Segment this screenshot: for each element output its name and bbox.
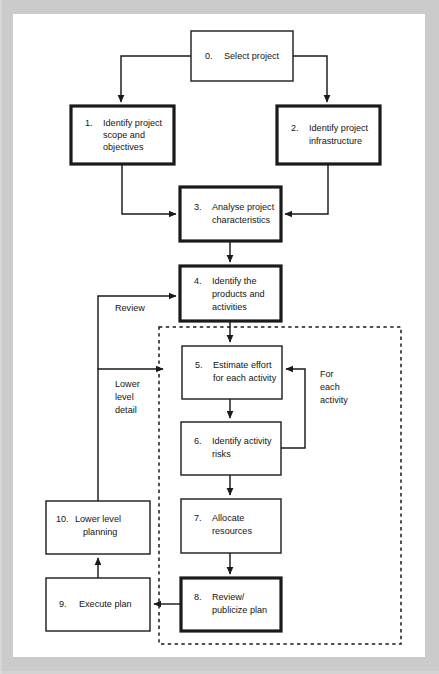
annotation-lower-level-detail-line-2: detail	[115, 405, 137, 415]
annotation-for-each-activity-line-2: activity	[320, 395, 348, 405]
flow-node-10-lower-level-planning[interactable]: 10. Lower level planning	[46, 501, 150, 554]
flow-node-4-label-line-1: products and	[212, 289, 265, 299]
flow-node-10-number: 10.	[56, 514, 69, 524]
flow-node-1-number: 1.	[85, 118, 93, 128]
edge-1-to-3	[122, 164, 176, 214]
flow-node-5-estimate-effort-for-each-activity[interactable]: 5. Estimate effort for each activity	[182, 346, 282, 399]
flow-node-5-label-line-1: for each activity	[213, 373, 277, 383]
diagram-canvas: 0. Select project 1. Identify project sc…	[13, 14, 425, 657]
flow-node-2-rect	[277, 106, 380, 164]
flow-node-7-label-line-1: resources	[212, 526, 252, 536]
flow-node-6-identify-activity-risks[interactable]: 6. Identify activity risks	[181, 422, 281, 475]
flow-node-1-label-line-2: objectives	[103, 142, 144, 152]
flowchart-svg: 0. Select project 1. Identify project sc…	[13, 14, 425, 657]
annotation-lower-level-detail-line-1: level	[115, 392, 134, 402]
flow-node-9-label-line-0: Execute plan	[79, 599, 132, 609]
flow-node-10-label-line-1: planning	[83, 527, 117, 537]
edge-2-to-3	[285, 164, 328, 214]
flow-node-9-number: 9.	[59, 599, 67, 609]
flow-node-8-label-line-0: Review/	[212, 592, 245, 602]
annotation-for-each-activity: For each activity	[320, 369, 348, 405]
flow-node-0-select-project[interactable]: 0. Select project	[191, 31, 293, 81]
flow-node-3-label-line-1: characteristics	[212, 215, 271, 225]
flow-node-3-number: 3.	[194, 202, 202, 212]
flow-node-7-number: 7.	[194, 513, 202, 523]
flow-node-8-label-line-1: publicize plan	[212, 605, 267, 615]
annotation-for-each-activity-line-1: each	[320, 382, 340, 392]
flow-node-4-identify-the-products-and-activities[interactable]: 4. Identify the products and activities	[180, 266, 281, 321]
flow-node-6-label-line-0: Identify activity	[212, 436, 272, 446]
annotation-lower-level-detail-line-0: Lower	[115, 379, 140, 389]
edge-6-to-5-loop	[281, 369, 305, 448]
flow-node-6-number: 6.	[194, 436, 202, 446]
annotation-review-line-0: Review	[115, 303, 145, 313]
flow-node-1-label-line-0: Identify project	[103, 118, 163, 128]
flow-node-1-label-line-1: scope and	[103, 130, 145, 140]
flow-node-4-label-line-0: Identify the	[212, 276, 257, 286]
flow-node-10-label-line-0: Lower level	[75, 514, 121, 524]
flow-node-2-number: 2.	[291, 123, 299, 133]
annotation-review: Review	[115, 303, 145, 313]
flow-node-7-label-line-0: Allocate	[212, 513, 244, 523]
flow-node-5-number: 5.	[195, 360, 203, 370]
flow-node-4-label-line-2: activities	[212, 302, 247, 312]
flow-node-0-number: 0.	[205, 51, 213, 61]
flow-node-6-rect	[181, 422, 281, 475]
flow-node-1-identify-project-scope-and-objectives[interactable]: 1. Identify project scope and objectives	[71, 106, 174, 164]
edge-0-to-2	[293, 56, 327, 102]
annotation-lower-level-detail: Lower level detail	[115, 379, 140, 415]
flow-node-3-analyse-project-characteristics[interactable]: 3. Analyse project characteristics	[180, 187, 281, 241]
flow-node-8-number: 8.	[194, 592, 202, 602]
flow-node-8-review-publicize-plan[interactable]: 8. Review/ publicize plan	[181, 578, 281, 631]
flow-node-5-label-line-0: Estimate effort	[213, 360, 272, 370]
flow-node-3-rect	[180, 187, 281, 241]
edge-0-to-1	[121, 56, 191, 102]
flow-node-2-label-line-0: Identify project	[309, 123, 369, 133]
flow-node-4-number: 4.	[194, 276, 202, 286]
screenshot-root: 0. Select project 1. Identify project sc…	[0, 0, 439, 674]
flow-node-6-label-line-1: risks	[212, 449, 231, 459]
annotation-for-each-activity-line-0: For	[320, 369, 334, 379]
flow-node-3-label-line-0: Analyse project	[212, 202, 275, 212]
flow-node-7-allocate-resources[interactable]: 7. Allocate resources	[181, 499, 281, 553]
flow-node-2-label-line-1: infrastructure	[309, 136, 362, 146]
flow-node-2-identify-project-infrastructure[interactable]: 2. Identify project infrastructure	[277, 106, 380, 164]
flow-node-9-execute-plan[interactable]: 9. Execute plan	[46, 578, 150, 631]
flow-node-0-label-line-0: Select project	[224, 51, 280, 61]
